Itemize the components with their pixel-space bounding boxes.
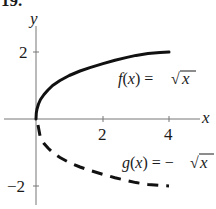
y-axis-label: y xyxy=(28,9,38,28)
function-graph: 19. x y 2 4 2 −2 f(x) = √ x g(x) = − √ x xyxy=(0,0,216,209)
svg-text:√: √ xyxy=(190,154,199,171)
x-tick-label-2: 2 xyxy=(98,125,107,144)
x-axis-label: x xyxy=(201,108,210,127)
svg-text:f(x) =: f(x) = xyxy=(118,70,153,88)
f-label: f(x) = √ x xyxy=(118,69,196,88)
svg-text:g(x) = −: g(x) = − xyxy=(122,154,174,172)
svg-text:√: √ xyxy=(171,70,180,87)
g-label-var: x xyxy=(199,153,208,172)
problem-number: 19. xyxy=(1,0,22,10)
g-label: g(x) = − √ x xyxy=(122,153,214,172)
y-tick-label-neg2: −2 xyxy=(7,177,25,196)
y-tick-label-2: 2 xyxy=(19,43,28,62)
x-tick-label-4: 4 xyxy=(164,125,173,144)
f-label-var: x xyxy=(181,69,190,88)
